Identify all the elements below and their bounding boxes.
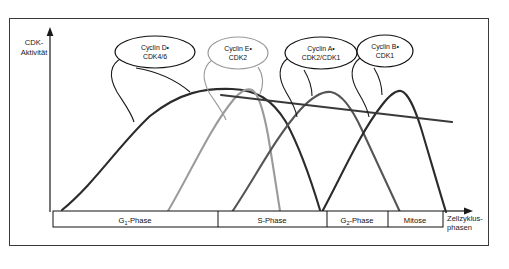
x-axis-label: Zellzyklus- phasen	[447, 214, 499, 233]
y-axis-label-line1: CDK-	[14, 38, 54, 48]
figure-frame	[9, 18, 489, 246]
x-axis-label-line2: phasen	[447, 223, 499, 232]
y-axis-label: CDK- Aktivität	[14, 38, 54, 57]
figure-root: CDK- Aktivität Zellzyklus- phasen	[0, 0, 509, 269]
y-axis-label-line2: Aktivität	[14, 48, 54, 58]
x-axis-label-line1: Zellzyklus-	[447, 214, 499, 223]
